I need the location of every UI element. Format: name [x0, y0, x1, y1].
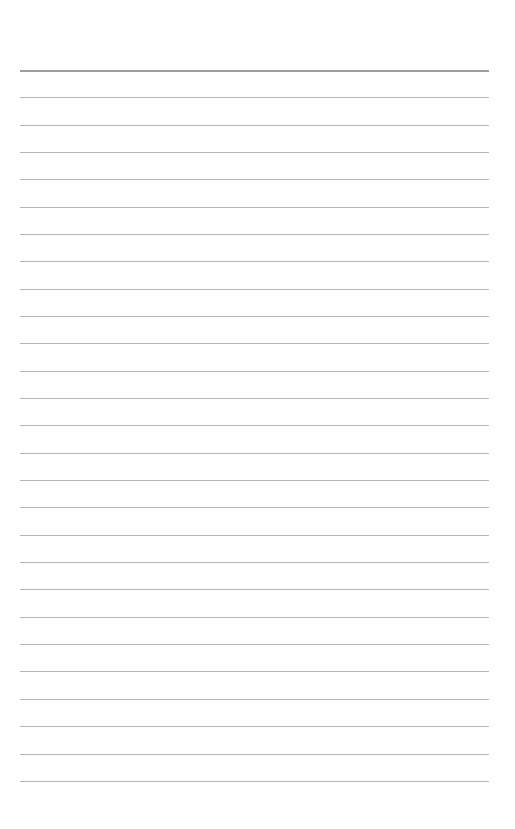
rule-line [20, 480, 489, 481]
rule-line [20, 726, 489, 727]
rule-line [20, 125, 489, 126]
rule-line [20, 179, 489, 180]
rule-line [20, 644, 489, 645]
rule-line [20, 316, 489, 317]
rule-line [20, 535, 489, 536]
rule-line [20, 371, 489, 372]
top-rule-line [20, 70, 489, 72]
rule-line [20, 699, 489, 700]
rule-line [20, 617, 489, 618]
rule-line [20, 589, 489, 590]
rule-line [20, 97, 489, 98]
rule-line [20, 507, 489, 508]
rule-line [20, 453, 489, 454]
rule-line [20, 289, 489, 290]
rule-line [20, 234, 489, 235]
rule-line [20, 754, 489, 755]
rule-line [20, 425, 489, 426]
lined-paper-page [0, 0, 515, 829]
rule-line [20, 152, 489, 153]
rule-line [20, 261, 489, 262]
rule-line [20, 562, 489, 563]
rule-line [20, 398, 489, 399]
rule-line [20, 781, 489, 782]
rule-line [20, 671, 489, 672]
rule-line [20, 343, 489, 344]
rule-line [20, 207, 489, 208]
